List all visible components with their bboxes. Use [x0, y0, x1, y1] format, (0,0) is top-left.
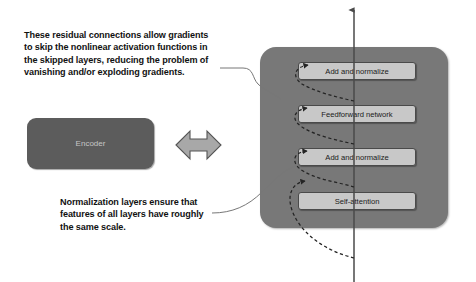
layer-box-self-attention[interactable]: Self-attention	[298, 192, 416, 210]
encoder-block[interactable]: Encoder	[27, 118, 154, 169]
encoder-label: Encoder	[27, 118, 154, 169]
double-headed-arrow-icon	[176, 131, 221, 159]
callout-normalization-layers: Normalization layers ensure that feature…	[60, 196, 240, 233]
layer-box-label: Feedforward network	[321, 110, 392, 119]
diagram-canvas: Add and normalize Feedforward network Ad…	[0, 0, 476, 282]
layer-box-feedforward-network[interactable]: Feedforward network	[298, 105, 416, 123]
layer-box-label: Add and normalize	[325, 153, 388, 162]
encoder-layer-panel: Add and normalize Feedforward network Ad…	[260, 47, 448, 228]
layer-box-add-and-normalize-top[interactable]: Add and normalize	[298, 62, 416, 80]
callout-residual-connections: These residual connections allow gradien…	[24, 29, 239, 79]
layer-box-label: Self-attention	[335, 197, 380, 206]
layer-box-label: Add and normalize	[325, 67, 388, 76]
layer-box-add-and-normalize-bottom[interactable]: Add and normalize	[298, 148, 416, 166]
